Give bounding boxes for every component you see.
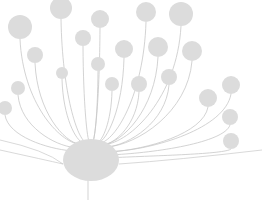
node-circle <box>75 30 91 46</box>
node-circle <box>105 77 119 91</box>
dandelion-illustration <box>0 0 262 200</box>
node-circle <box>0 101 12 115</box>
node-circle <box>199 89 217 107</box>
node-circle <box>182 41 202 61</box>
stem-line <box>0 150 63 164</box>
stem-line <box>98 58 124 143</box>
node-circle <box>11 81 25 95</box>
node-circle <box>169 2 193 26</box>
stem-line <box>107 85 169 147</box>
node-circle <box>91 57 105 71</box>
hub-ellipse <box>63 139 119 181</box>
stem-line <box>93 71 98 142</box>
stem-line <box>62 79 83 143</box>
stem-line <box>5 115 71 151</box>
stem-line <box>18 95 74 147</box>
node-circle <box>8 15 32 39</box>
node-circle <box>91 10 109 28</box>
node-circle <box>148 37 168 57</box>
node-circle <box>27 47 43 63</box>
stem-line <box>83 46 89 142</box>
stem-line <box>97 91 112 143</box>
network-graphic <box>0 0 262 200</box>
node-circle <box>115 40 133 58</box>
node-circle <box>136 2 156 22</box>
stem-line <box>112 107 208 152</box>
stem-line <box>107 61 192 147</box>
node-circle <box>56 67 68 79</box>
node-circle <box>223 133 239 149</box>
node-circle <box>222 76 240 94</box>
node-circle <box>131 76 147 92</box>
stem-line <box>119 150 262 164</box>
node-circle <box>222 109 238 125</box>
node-circle <box>50 0 72 19</box>
node-circle <box>161 69 177 85</box>
stem-line <box>93 28 100 142</box>
